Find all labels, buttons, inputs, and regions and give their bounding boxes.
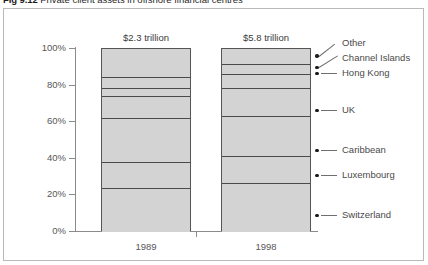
y-axis-label-40: 40% (6, 152, 66, 163)
y-axis-label-20: 20% (6, 188, 66, 199)
segment-1989-luxembourg[interactable] (102, 163, 190, 189)
bar-1989[interactable] (101, 48, 191, 231)
figure-number: Fig 9.12 (3, 0, 38, 5)
legend-dot-caribbean (315, 149, 319, 153)
y-axis-line (75, 47, 76, 231)
legend-label-other: Other (342, 37, 366, 48)
legend-label-luxembourg: Luxembourg (342, 169, 395, 180)
legend-leader-channel-islands (319, 55, 338, 68)
segment-1998-other[interactable] (222, 49, 310, 65)
y-tick-0 (69, 231, 75, 232)
figure-title: Private client assets in offshore financ… (40, 0, 243, 5)
bar-total-1989: $2.3 trillion (91, 32, 201, 43)
y-axis-label-0: 0% (6, 225, 66, 236)
x-axis-label-1989: 1989 (101, 241, 191, 252)
y-tick-100 (69, 48, 75, 49)
segment-1998-caribbean[interactable] (222, 117, 310, 157)
x-axis-label-1998: 1998 (221, 241, 311, 252)
legend-leader-luxembourg (321, 175, 337, 176)
y-tick-40 (69, 158, 75, 159)
segment-1989-switzerland[interactable] (102, 189, 190, 232)
segment-1998-uk[interactable] (222, 89, 310, 116)
bar-1998[interactable] (221, 48, 311, 231)
legend-label-hong-kong: Hong Kong (342, 67, 390, 78)
legend-dot-luxembourg (315, 174, 319, 178)
y-axis-label-80: 80% (6, 79, 66, 90)
segment-1989-caribbean[interactable] (102, 119, 190, 163)
chart-frame: 0% 20% 40% 60% 80% 100% $2.3 trillion $5… (3, 8, 424, 261)
legend-label-uk: UK (342, 104, 355, 115)
segment-1998-channel-islands[interactable] (222, 65, 310, 74)
segment-1989-other[interactable] (102, 49, 190, 78)
segment-1989-uk[interactable] (102, 97, 190, 119)
legend-leader-uk (321, 110, 337, 111)
bar-total-1998: $5.8 trillion (211, 32, 321, 43)
legend-label-caribbean: Caribbean (342, 144, 386, 155)
segment-1989-hong-kong[interactable] (102, 89, 190, 97)
y-tick-20 (69, 194, 75, 195)
legend-dot-switzerland (315, 214, 319, 218)
y-tick-60 (69, 121, 75, 122)
y-axis-label-60: 60% (6, 115, 66, 126)
segment-1998-luxembourg[interactable] (222, 157, 310, 184)
segment-1989-channel-islands[interactable] (102, 78, 190, 89)
legend-label-channel-islands: Channel Islands (342, 52, 410, 63)
legend-leader-other (319, 44, 335, 57)
y-tick-80 (69, 85, 75, 86)
legend-leader-hong-kong (321, 73, 337, 74)
plot-area: 0% 20% 40% 60% 80% 100% $2.3 trillion $5… (4, 9, 425, 262)
x-axis-tick-divider (196, 232, 197, 237)
legend-label-switzerland: Switzerland (342, 209, 391, 220)
figure-caption: Fig 9.12 Private client assets in offsho… (3, 0, 423, 7)
legend-dot-uk (315, 109, 319, 113)
y-axis-label-100: 100% (6, 42, 66, 53)
segment-1998-switzerland[interactable] (222, 184, 310, 232)
legend-leader-switzerland (321, 215, 337, 216)
legend-dot-hong-kong (315, 72, 319, 76)
segment-1998-hong-kong[interactable] (222, 75, 310, 90)
legend-leader-caribbean (321, 150, 337, 151)
